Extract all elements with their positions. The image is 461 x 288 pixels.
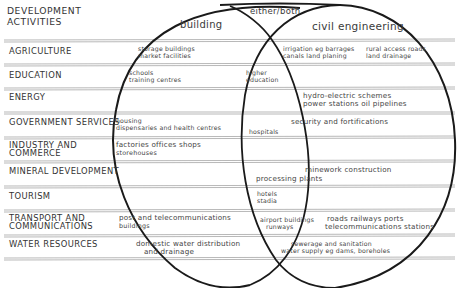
cell-text: minework construction [305, 166, 392, 174]
set-label-civil: civil engineering [312, 20, 404, 32]
set-label-overlap: either/both [250, 6, 301, 16]
row-label-education: EDUCATION [9, 71, 62, 79]
cell-text: post and telecommunications [119, 214, 231, 222]
cell-text: runways [260, 223, 314, 230]
row-label-transport-communications: TRANSPORT AND COMMUNICATIONS [9, 214, 93, 230]
cell-energy-civil: hydro-electric schemes power stations oi… [303, 92, 407, 108]
cell-text: land drainage [366, 52, 426, 59]
cell-text: irrigation eg barrages [283, 45, 355, 52]
row-label-energy: ENERGY [9, 93, 45, 101]
cell-text: power stations oil pipelines [303, 100, 407, 108]
top-arc [220, 4, 340, 6]
cell-mineral-civil: minework construction [305, 166, 392, 174]
row-label-mineral-development: MINERAL DEVELOPMENT [9, 167, 119, 175]
cell-text: storage buildings [138, 45, 195, 52]
cell-text: rural access roads [366, 45, 426, 52]
cell-tourism-both: hotels stadia [257, 190, 277, 204]
cell-industry-building: factories offices shops storehouses [116, 141, 201, 157]
row-label-agriculture: AGRICULTURE [9, 47, 72, 55]
cell-text: housing [116, 117, 221, 124]
cell-text: dispensaries and health centres [116, 124, 221, 131]
cell-text: factories offices shops [116, 141, 201, 149]
cell-text: processing plants [256, 175, 323, 183]
cell-government-building: housing dispensaries and health centres [116, 117, 221, 131]
row-label-industry-commerce: INDUSTRY AND COMMERCE [9, 141, 77, 157]
cell-text: higher [246, 69, 279, 76]
cell-text: storehouses [116, 149, 201, 157]
cell-transport-building: post and telecommunications buildings [119, 214, 231, 230]
cell-text: schools [129, 69, 181, 76]
header-line-1: DEVELOPMENT [7, 5, 81, 16]
cell-text: and drainage [136, 248, 240, 256]
cell-text: training centres [129, 76, 181, 83]
cell-text: security and fortifications [291, 118, 388, 126]
row-label-tourism: TOURISM [9, 192, 50, 200]
row-label-industry-line2: COMMERCE [9, 149, 77, 157]
cell-text: market facilities [138, 52, 195, 59]
cell-transport-civil: roads railways ports telecommunications … [327, 215, 434, 231]
row-label-government-services: GOVERNMENT SERVICES [9, 118, 120, 126]
cell-text: buildings [119, 222, 231, 230]
cell-text: hotels [257, 190, 277, 197]
cell-agriculture-civil-a: irrigation eg barrages canals land plani… [283, 45, 355, 59]
cell-text: education [246, 76, 279, 83]
cell-text: water supply eg dams, boreholes [281, 247, 390, 254]
cell-agriculture-building: storage buildings market facilities [138, 45, 195, 59]
cell-text: stadia [257, 197, 277, 204]
cell-water-building: domestic water distribution and drainage [136, 240, 240, 256]
cell-mineral-both: processing plants [256, 175, 323, 183]
cell-agriculture-civil-b: rural access roads land drainage [366, 45, 426, 59]
header-title: DEVELOPMENT ACTIVITIES [7, 5, 81, 27]
cell-government-both: hospitals [249, 128, 279, 135]
cell-water-civil: sewerage and sanitation water supply eg … [281, 240, 390, 254]
row-label-water-resources: WATER RESOURCES [9, 240, 98, 248]
cell-education-building: schools training centres [129, 69, 181, 83]
cell-text: sewerage and sanitation [281, 240, 390, 247]
cell-government-civil: security and fortifications [291, 118, 388, 126]
cell-transport-both: airport buildings runways [260, 216, 314, 230]
cell-text: airport buildings [260, 216, 314, 223]
cell-text: canals land planing [283, 52, 355, 59]
cell-text: telecommunications stations [325, 223, 434, 231]
cell-education-both: higher education [246, 69, 279, 83]
header-line-2: ACTIVITIES [7, 16, 81, 27]
cell-text: hospitals [249, 128, 279, 135]
set-label-building: building [180, 19, 222, 30]
row-label-transport-line2: COMMUNICATIONS [9, 222, 93, 230]
